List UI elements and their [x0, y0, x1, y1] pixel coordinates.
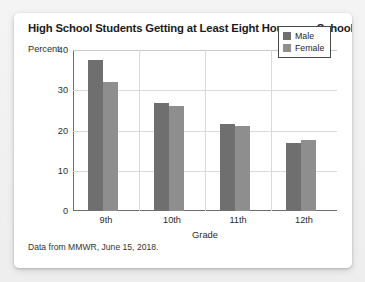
bar-group: 9th	[73, 50, 139, 211]
legend-label-male: Male	[295, 31, 314, 41]
bar-male-12th	[286, 143, 301, 211]
x-tick-label: 9th	[73, 215, 139, 225]
bar-group: 10th	[139, 50, 205, 211]
y-tick-label: 40	[58, 45, 68, 55]
y-tick-label: 30	[58, 85, 68, 95]
bar-female-10th	[169, 106, 184, 211]
y-tick-label: 10	[58, 166, 68, 176]
y-tick-label: 0	[63, 206, 68, 216]
y-tick-label: 20	[58, 126, 68, 136]
legend-swatch-female-icon	[283, 44, 291, 52]
chart-legend: Male Female	[278, 26, 331, 58]
page-background: High School Students Getting at Least Ei…	[0, 0, 365, 282]
bar-male-9th	[88, 60, 103, 211]
legend-item-male: Male	[283, 30, 324, 42]
chart-card: High School Students Getting at Least Ei…	[14, 13, 352, 268]
x-tick-label: 12th	[271, 215, 337, 225]
x-tick-label: 11th	[205, 215, 271, 225]
plot-canvas: 0102030409th10th11th12th	[73, 50, 337, 211]
legend-item-female: Female	[283, 42, 324, 54]
x-axis-label: Grade	[73, 229, 337, 240]
bar-male-11th	[220, 124, 235, 211]
bar-group: 11th	[205, 50, 271, 211]
bar-group: 12th	[271, 50, 337, 211]
legend-swatch-male-icon	[283, 32, 291, 40]
legend-label-female: Female	[295, 43, 324, 53]
y-axis-label: Percent	[28, 44, 60, 54]
source-note: Data from MMWR, June 15, 2018.	[28, 242, 158, 252]
bar-male-10th	[154, 103, 169, 211]
bar-female-11th	[235, 126, 250, 211]
bar-female-12th	[301, 140, 316, 211]
bar-female-9th	[103, 82, 118, 211]
x-tick-label: 10th	[139, 215, 205, 225]
